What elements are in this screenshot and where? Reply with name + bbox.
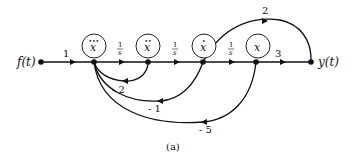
gain-label-minus-5: - 5 bbox=[199, 124, 212, 135]
state-label-x: x bbox=[246, 34, 270, 58]
svg-text:s: s bbox=[173, 49, 177, 57]
input-node bbox=[38, 59, 44, 65]
output-node bbox=[308, 59, 314, 65]
state-label-x3dot: x ••• bbox=[82, 34, 106, 58]
arrow-icon bbox=[70, 59, 76, 65]
svg-text:s: s bbox=[229, 49, 233, 57]
gain-label-2: 2 bbox=[262, 5, 268, 16]
arrow-icon bbox=[280, 59, 286, 65]
svg-text:s: s bbox=[118, 49, 122, 57]
feedback-branch-minus-1 bbox=[94, 62, 203, 101]
state-node-x2dot bbox=[145, 59, 151, 65]
state-label-x1dot: x • bbox=[192, 34, 216, 58]
arrow-icon bbox=[174, 59, 180, 65]
state-node-x3dot bbox=[91, 59, 97, 65]
svg-text:1: 1 bbox=[118, 41, 122, 49]
svg-text:••: •• bbox=[145, 37, 152, 44]
state-label-x2dot: x •• bbox=[136, 34, 160, 58]
gain-label-minus-1: - 1 bbox=[148, 103, 161, 114]
svg-text:x: x bbox=[254, 41, 261, 54]
gain-label-1-over-s-a: 1 s bbox=[117, 41, 123, 57]
gain-label-1-over-s-b: 1 s bbox=[172, 41, 178, 57]
gain-label-1-over-s-c: 1 s bbox=[228, 41, 234, 57]
state-node-x bbox=[253, 59, 259, 65]
svg-text:•••: ••• bbox=[89, 37, 100, 44]
svg-text:•: • bbox=[202, 37, 206, 44]
state-node-x1dot bbox=[200, 59, 206, 65]
output-label: y(t) bbox=[317, 55, 339, 69]
arrow-icon bbox=[229, 59, 235, 65]
signal-flow-graph: f(t) x ••• x •• x • x 1 1 bbox=[0, 0, 354, 158]
gain-label-1: 1 bbox=[63, 48, 69, 59]
input-label: f(t) bbox=[16, 55, 36, 69]
svg-text:1: 1 bbox=[173, 41, 177, 49]
arrow-icon bbox=[119, 59, 125, 65]
gain-label-3: 3 bbox=[275, 48, 281, 59]
feedback-branch-minus-2 bbox=[94, 62, 148, 81]
gain-label-minus-2: - 2 bbox=[112, 84, 125, 95]
figure-caption: (a) bbox=[166, 141, 180, 152]
svg-text:1: 1 bbox=[229, 41, 233, 49]
